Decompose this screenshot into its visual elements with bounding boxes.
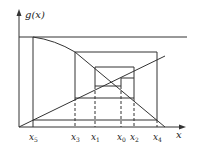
tick-x5: x5 (29, 133, 38, 143)
tick-x1: x1 (91, 133, 100, 143)
cobweb-diagram (0, 0, 199, 152)
y-axis-label: g(x) (25, 10, 45, 20)
tick-x3: x3 (71, 133, 80, 143)
tick-x4: x4 (153, 133, 162, 143)
tick-x0: x0 (117, 133, 126, 143)
g-curve (33, 37, 165, 127)
y-axis-arrow (17, 9, 22, 16)
x-axis-label: x (176, 130, 182, 140)
tick-x2: x2 (130, 133, 139, 143)
